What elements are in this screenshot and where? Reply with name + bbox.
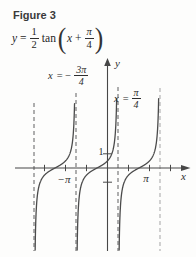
figure-equation: y = 1 2 tan ( x + π 4 ) <box>12 24 104 52</box>
eq-frac-one-half: 1 2 <box>30 26 39 50</box>
eq-frac2-den: 4 <box>85 39 94 51</box>
eq-frac-pi-fourth: π 4 <box>85 26 94 50</box>
eq-function-name: tan <box>42 32 56 44</box>
asym-right-var: x <box>114 93 119 104</box>
y-axis-arrow <box>104 58 111 66</box>
x-axis-label: x <box>180 170 186 182</box>
eq-frac2-num: π <box>85 26 94 39</box>
asym-left-num: 3π <box>74 64 88 76</box>
figure-title: Figure 3 <box>13 9 56 21</box>
figure-panel: Figure 3 y = 1 2 tan ( x + π 4 ) y x 1 −… <box>0 0 196 257</box>
asymptote-label-left: x = − 3π 4 <box>48 64 88 87</box>
y-tick-label-1: 1 <box>99 146 104 157</box>
asym-right-num: π <box>132 87 141 99</box>
asym-left-den: 4 <box>77 76 86 87</box>
x-tick-label-pi: π <box>143 172 149 184</box>
y-axis-label: y <box>114 57 120 69</box>
eq-frac1-den: 2 <box>30 39 39 51</box>
function-curve-branch <box>119 99 158 250</box>
asym-right-rel: = <box>123 93 129 104</box>
asym-left-var: x <box>48 70 53 81</box>
asym-right-frac: π 4 <box>132 87 141 110</box>
eq-lhs: y <box>12 32 17 44</box>
asymptote-label-right: x = π 4 <box>114 87 141 110</box>
asym-left-frac: 3π 4 <box>74 64 88 87</box>
asym-left-rel: = − <box>57 70 71 81</box>
eq-open-paren: ( <box>58 25 67 51</box>
eq-arg-var: x <box>67 32 72 44</box>
function-curve-branch <box>77 99 116 250</box>
asym-right-den: 4 <box>132 99 141 110</box>
graph-svg: y x 1 −π π <box>0 55 196 257</box>
x-tick-label-neg-pi: −π <box>58 173 71 185</box>
eq-plus: + <box>75 32 82 44</box>
graph-area: y x 1 −π π x = − 3π 4 x = π 4 <box>0 55 196 257</box>
eq-close-paren: ) <box>95 25 104 51</box>
eq-equals: = <box>20 32 27 44</box>
eq-frac1-num: 1 <box>30 26 39 39</box>
